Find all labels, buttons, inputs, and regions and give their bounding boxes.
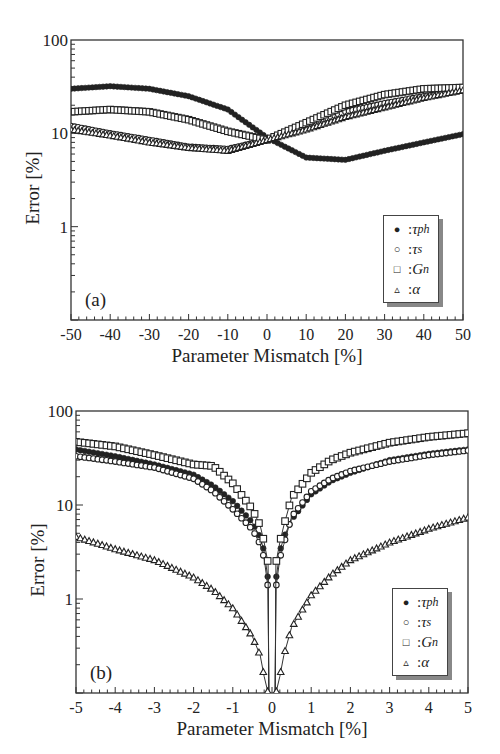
x-tick-label: 5 <box>464 699 472 716</box>
chart-b-plot: -5-4-3-2-1012345110100Parameter Mismatch… <box>0 377 500 754</box>
legend-item-tau-s: ○ : τs <box>399 612 439 632</box>
x-tick-label: 0 <box>268 699 276 716</box>
x-tick-label: -40 <box>100 326 121 343</box>
legend-item-tau-ph: ● : τph <box>390 219 430 239</box>
open-square-icon: □ <box>390 259 404 279</box>
open-circle-icon: ○ <box>399 612 413 632</box>
y-tick-label: 100 <box>48 402 74 421</box>
legend-item-tau-ph: ● : τph <box>399 592 439 612</box>
x-tick-label: -50 <box>60 326 81 343</box>
x-tick-label: 4 <box>425 699 433 716</box>
x-tick-label: 50 <box>455 326 471 343</box>
chart-panel-a: -50-40-30-20-1001020304050110100Paramete… <box>0 0 500 377</box>
legend-item-alpha: ▵ : α <box>399 652 439 672</box>
open-triangle-icon: ▵ <box>390 279 404 299</box>
y-tick-label: 1 <box>60 218 69 237</box>
open-square-icon: □ <box>399 632 413 652</box>
x-tick-label: 0 <box>263 326 271 343</box>
legend-item-gn: □ : Gn <box>399 632 439 652</box>
x-tick-label: 1 <box>307 699 315 716</box>
y-axis-label: Error [%] <box>22 151 43 224</box>
open-triangle-icon: ▵ <box>399 652 413 672</box>
x-tick-label: -30 <box>139 326 160 343</box>
x-tick-label: -20 <box>178 326 199 343</box>
open-circle-icon: ○ <box>390 239 404 259</box>
x-tick-label: 3 <box>386 699 394 716</box>
y-tick-label: 1 <box>65 590 74 609</box>
x-tick-label: -4 <box>109 699 122 716</box>
legend-item-tau-s: ○ : τs <box>390 239 430 259</box>
x-tick-label: -5 <box>69 699 82 716</box>
legend-b: ● : τph ○ : τs □ : Gn ▵ : α <box>392 588 448 676</box>
y-axis-label: Error [%] <box>27 523 48 596</box>
legend-item-gn: □ : Gn <box>390 259 430 279</box>
panel-label: (b) <box>90 662 112 684</box>
legend-item-alpha: ▵ : α <box>390 279 430 299</box>
x-tick-label: -10 <box>217 326 238 343</box>
x-axis-label: Parameter Mismatch [%] <box>177 718 368 739</box>
chart-a-plot: -50-40-30-20-1001020304050110100Paramete… <box>0 0 500 377</box>
x-tick-label: 30 <box>377 326 393 343</box>
y-tick-label: 10 <box>51 124 68 143</box>
filled-circle-icon: ● <box>390 219 404 239</box>
y-tick-label: 10 <box>56 496 73 515</box>
x-tick-label: 40 <box>416 326 432 343</box>
filled-circle-icon: ● <box>399 592 413 612</box>
chart-panel-b: -5-4-3-2-1012345110100Parameter Mismatch… <box>0 377 500 754</box>
x-tick-label: 20 <box>337 326 353 343</box>
x-tick-label: -1 <box>226 699 239 716</box>
legend-a: ● : τph ○ : τs □ : Gn ▵ : α <box>383 215 439 303</box>
x-axis-label: Parameter Mismatch [%] <box>172 345 363 366</box>
y-tick-label: 100 <box>43 31 69 50</box>
x-tick-label: 2 <box>346 699 354 716</box>
panel-label: (a) <box>85 289 106 311</box>
x-tick-label: 10 <box>298 326 314 343</box>
x-tick-label: -3 <box>148 699 161 716</box>
x-tick-label: -2 <box>187 699 200 716</box>
